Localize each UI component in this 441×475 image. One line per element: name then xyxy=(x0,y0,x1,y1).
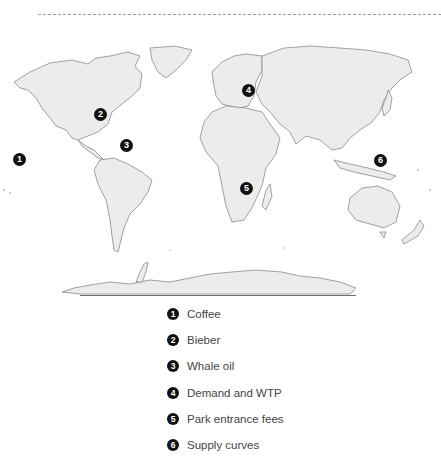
legend-item: 1 Coffee xyxy=(167,307,284,333)
dashed-divider xyxy=(38,14,441,15)
legend-number-badge: 5 xyxy=(167,413,179,425)
map-marker-6: 6 xyxy=(374,154,387,167)
south-america xyxy=(94,158,152,252)
new-zealand xyxy=(402,220,424,244)
map-marker-1: 1 xyxy=(13,153,26,166)
legend-item: 2 Bieber xyxy=(167,333,284,359)
map-marker-3: 3 xyxy=(120,139,133,152)
legend-number-badge: 4 xyxy=(167,387,179,399)
madagascar xyxy=(262,184,272,210)
legend-item: 3 Whale oil xyxy=(167,359,284,385)
legend-item: 6 Supply curves xyxy=(167,438,284,464)
legend-label: Whale oil xyxy=(187,359,234,373)
legend-item: 5 Park entrance fees xyxy=(167,412,284,438)
antarctic-peninsula xyxy=(136,262,148,282)
legend-label: Bieber xyxy=(187,333,220,347)
southeast-asia-islands xyxy=(334,160,396,180)
legend-number-badge: 2 xyxy=(167,334,179,346)
north-america xyxy=(14,52,142,140)
australia xyxy=(348,186,400,228)
tasmania xyxy=(380,232,386,238)
legend-number-badge: 6 xyxy=(167,439,179,451)
antarctica xyxy=(62,270,356,294)
legend-label: Supply curves xyxy=(187,438,259,452)
map-legend: 1 Coffee 2 Bieber 3 Whale oil 4 Demand a… xyxy=(167,307,284,464)
europe xyxy=(212,54,262,108)
map-marker-2: 2 xyxy=(94,108,107,121)
central-america xyxy=(78,140,104,160)
map-marker-5: 5 xyxy=(240,182,253,195)
map-marker-4: 4 xyxy=(242,84,255,97)
greenland xyxy=(150,46,192,78)
legend-number-badge: 1 xyxy=(167,308,179,320)
legend-label: Park entrance fees xyxy=(187,412,284,426)
legend-item: 4 Demand and WTP xyxy=(167,386,284,412)
legend-label: Demand and WTP xyxy=(187,386,282,400)
map-baseline xyxy=(80,295,356,296)
legend-label: Coffee xyxy=(187,307,221,321)
legend-number-badge: 3 xyxy=(167,360,179,372)
